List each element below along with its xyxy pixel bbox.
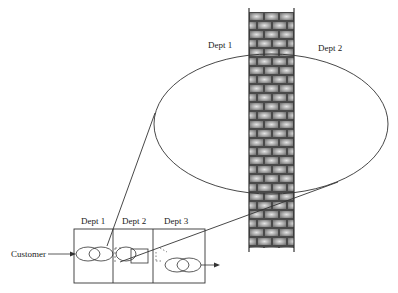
customer-input-arrow: [48, 252, 76, 257]
process-box: [74, 229, 205, 283]
customer-label: Customer: [11, 249, 46, 259]
box-label-dept1: Dept 1: [81, 216, 105, 226]
diagram-canvas: Dept 1 Dept 2 Dept 1 Dept 2 Dept 3 Custo…: [0, 0, 398, 293]
box-label-dept3: Dept 3: [164, 216, 188, 226]
wall-label-dept1: Dept 1: [208, 40, 232, 50]
wall-label-dept2: Dept 2: [318, 43, 342, 53]
dept3-handoff-shapes: [156, 248, 201, 272]
dept1-handoff-ellipses: [76, 247, 113, 261]
brick-wall: [249, 8, 294, 252]
dept2-handoff-shapes: [115, 247, 148, 263]
output-arrow: [201, 263, 220, 268]
box-label-dept2: Dept 2: [122, 216, 146, 226]
zoom-line-left: [107, 113, 155, 246]
